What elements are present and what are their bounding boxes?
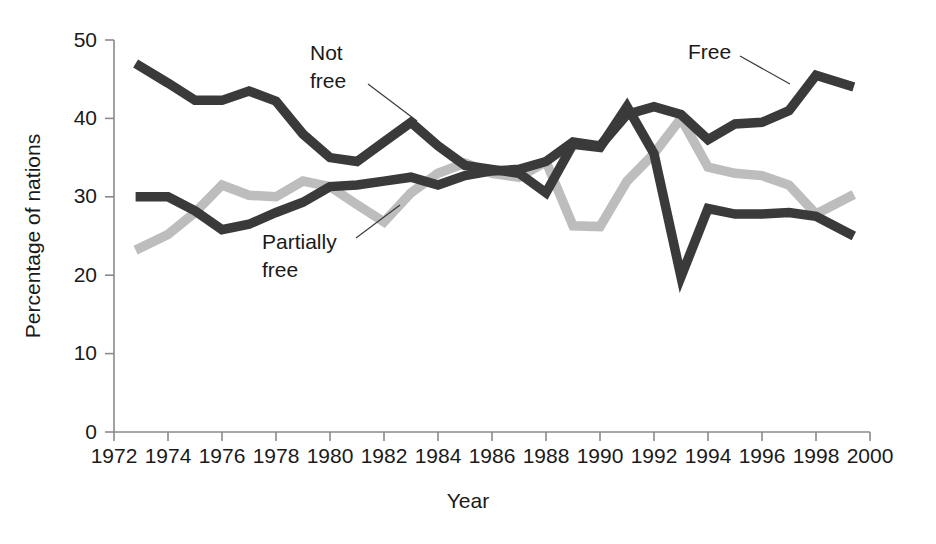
series-line-partially-free <box>136 118 854 250</box>
x-tick-label: 1988 <box>523 444 570 467</box>
data-series-group <box>136 64 854 277</box>
x-tick-label: 1978 <box>253 444 300 467</box>
x-tick-label: 1986 <box>469 444 516 467</box>
y-tick-label: 50 <box>74 28 97 51</box>
series-line-free <box>136 75 854 229</box>
annotation-partially-free-line2: free <box>262 258 298 281</box>
x-tick-label: 1976 <box>199 444 246 467</box>
y-tick-label: 10 <box>74 341 97 364</box>
y-tick-label: 20 <box>74 263 97 286</box>
x-tick-label: 1982 <box>361 444 408 467</box>
x-tick-label: 2000 <box>847 444 894 467</box>
y-axis-title: Percentage of nations <box>21 134 44 338</box>
annotation-free-leader <box>740 56 790 84</box>
annotation-not-free: Not free <box>310 41 417 121</box>
x-tick-label: 1994 <box>685 444 732 467</box>
x-axis-ticks: 1972197419761978198019821984198619881990… <box>91 432 894 467</box>
y-tick-label: 0 <box>85 420 97 443</box>
annotation-free: Free <box>688 40 790 84</box>
annotation-free-line1: Free <box>688 40 731 63</box>
chart-canvas: 01020304050 1972197419761978198019821984… <box>0 0 936 544</box>
y-tick-label: 40 <box>74 106 97 129</box>
annotation-not-free-leader <box>368 84 417 121</box>
annotation-not-free-line1: Not <box>310 41 343 64</box>
y-axis-ticks: 01020304050 <box>74 28 114 443</box>
x-axis-title: Year <box>447 489 489 512</box>
x-tick-label: 1998 <box>793 444 840 467</box>
x-tick-label: 1980 <box>307 444 354 467</box>
y-tick-label: 30 <box>74 184 97 207</box>
x-tick-label: 1972 <box>91 444 138 467</box>
line-chart: 01020304050 1972197419761978198019821984… <box>0 0 936 544</box>
annotation-partially-free-line1: Partially <box>262 230 337 253</box>
annotation-not-free-line2: free <box>310 69 346 92</box>
x-tick-label: 1984 <box>415 444 462 467</box>
x-tick-label: 1996 <box>739 444 786 467</box>
x-tick-label: 1974 <box>145 444 192 467</box>
x-tick-label: 1992 <box>631 444 678 467</box>
x-tick-label: 1990 <box>577 444 624 467</box>
